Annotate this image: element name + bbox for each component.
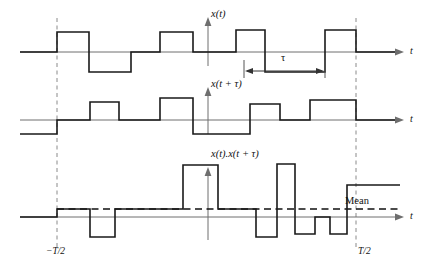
label-t-right: T/2: [358, 247, 371, 257]
label-t-left: −T/2: [46, 247, 65, 257]
label-time-axis-bottom: t: [410, 211, 413, 221]
label-time-axis-middle: t: [410, 114, 413, 124]
label-signal-top: x(t): [211, 9, 226, 20]
label-mean: Mean: [345, 196, 369, 207]
time-axis-arrowhead-middle: [395, 117, 404, 124]
tau-arrowhead-right: [316, 68, 324, 74]
label-signal-middle: x(t + τ): [211, 79, 242, 90]
label-tau: τ: [281, 53, 285, 64]
amplitude-axis-arrowhead-bottom: [205, 167, 212, 176]
tau-arrowhead-left: [245, 68, 253, 74]
panel-signal-middle: [20, 87, 404, 134]
label-time-axis-top: t: [410, 46, 413, 56]
label-signal-bottom: x(t).x(t + τ): [211, 149, 259, 160]
panel-signal-top: [20, 17, 404, 72]
waveform-canvas: [0, 0, 426, 270]
autocorrelation-figure: x(t) t τ x(t + τ) t x(t).x(t + τ) t Mean…: [0, 0, 426, 270]
time-axis-arrowhead-top: [395, 49, 404, 56]
time-axis-arrowhead-bottom: [395, 214, 404, 221]
